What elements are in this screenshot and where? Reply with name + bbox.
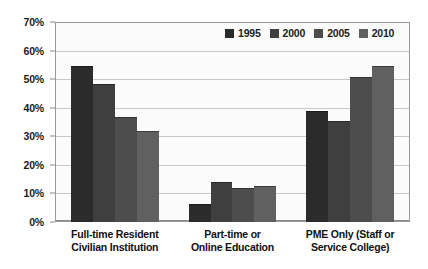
bar-1995-3 bbox=[306, 111, 328, 222]
legend-item-1995: 1995 bbox=[225, 27, 261, 39]
y-axis-tick-mark bbox=[50, 107, 55, 108]
y-axis-tick-mark bbox=[50, 164, 55, 165]
legend-item-2010: 2010 bbox=[359, 27, 395, 39]
legend-label: 2010 bbox=[372, 27, 395, 39]
bar-2005-1 bbox=[115, 117, 137, 222]
category-label-line: Full-time Resident bbox=[56, 228, 174, 241]
bar-chart: 0%10%20%30%40%50%60%70% 1995200020052010… bbox=[0, 0, 428, 269]
bar-2005-2 bbox=[232, 188, 254, 222]
chart-legend: 1995200020052010 bbox=[222, 25, 397, 41]
legend-item-2005: 2005 bbox=[314, 27, 350, 39]
bars-layer bbox=[56, 23, 409, 222]
category-label-line: Online Education bbox=[174, 241, 292, 254]
category-label-line: Part-time or bbox=[174, 228, 292, 241]
y-axis-tick-label: 70% bbox=[24, 16, 44, 28]
bar-2010-1 bbox=[137, 131, 159, 222]
y-axis-tick-mark bbox=[50, 193, 55, 194]
legend-label: 2000 bbox=[283, 27, 306, 39]
category-label: Full-time ResidentCivilian Institution bbox=[56, 228, 174, 254]
bar-2005-3 bbox=[350, 77, 372, 222]
bar-2000-2 bbox=[211, 182, 233, 222]
y-axis-tick-label: 0% bbox=[29, 216, 44, 228]
y-axis-tick-label: 50% bbox=[24, 73, 44, 85]
y-axis-tick-label: 10% bbox=[24, 187, 44, 199]
legend-swatch-icon bbox=[359, 29, 368, 38]
legend-swatch-icon bbox=[314, 29, 323, 38]
bar-group bbox=[306, 23, 394, 222]
bar-1995-1 bbox=[71, 66, 93, 222]
bar-2010-3 bbox=[372, 66, 394, 222]
y-axis-tick-label: 40% bbox=[24, 102, 44, 114]
legend-item-2000: 2000 bbox=[270, 27, 306, 39]
legend-label: 1995 bbox=[238, 27, 261, 39]
y-axis-tick-label: 20% bbox=[24, 159, 44, 171]
y-axis-tick-mark bbox=[50, 22, 55, 23]
category-label-line: PME Only (Staff or bbox=[291, 228, 409, 241]
category-label-line: Service College) bbox=[291, 241, 409, 254]
y-axis-tick-label: 30% bbox=[24, 130, 44, 142]
legend-swatch-icon bbox=[225, 29, 234, 38]
y-axis-tick-mark bbox=[50, 222, 55, 223]
legend-swatch-icon bbox=[270, 29, 279, 38]
y-axis-tick-label: 60% bbox=[24, 45, 44, 57]
category-labels: Full-time ResidentCivilian InstitutionPa… bbox=[56, 228, 409, 268]
y-axis-tick-mark bbox=[50, 136, 55, 137]
bar-2000-1 bbox=[93, 84, 115, 222]
bar-2010-2 bbox=[254, 186, 276, 222]
category-label: Part-time orOnline Education bbox=[174, 228, 292, 254]
category-label: PME Only (Staff orService College) bbox=[291, 228, 409, 254]
y-axis: 0%10%20%30%40%50%60%70% bbox=[0, 0, 50, 269]
bar-2000-3 bbox=[328, 121, 350, 222]
y-axis-tick-mark bbox=[50, 50, 55, 51]
category-label-line: Civilian Institution bbox=[56, 241, 174, 254]
legend-label: 2005 bbox=[327, 27, 350, 39]
bar-group bbox=[189, 23, 277, 222]
y-axis-tick-mark bbox=[50, 79, 55, 80]
bar-group bbox=[71, 23, 159, 222]
bar-1995-2 bbox=[189, 204, 211, 222]
